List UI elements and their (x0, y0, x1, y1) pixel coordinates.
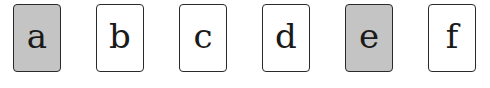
card-a: a (13, 4, 61, 72)
card-d: d (262, 4, 310, 72)
card-label: b (109, 19, 131, 53)
card-label: f (446, 19, 459, 53)
card-label: d (275, 19, 297, 53)
card-b: b (96, 4, 144, 72)
card-label: e (359, 19, 379, 53)
card-label: c (193, 19, 212, 53)
card-f: f (428, 4, 476, 72)
card-label: a (27, 19, 47, 53)
card-e: e (345, 4, 393, 72)
card-c: c (179, 4, 227, 72)
